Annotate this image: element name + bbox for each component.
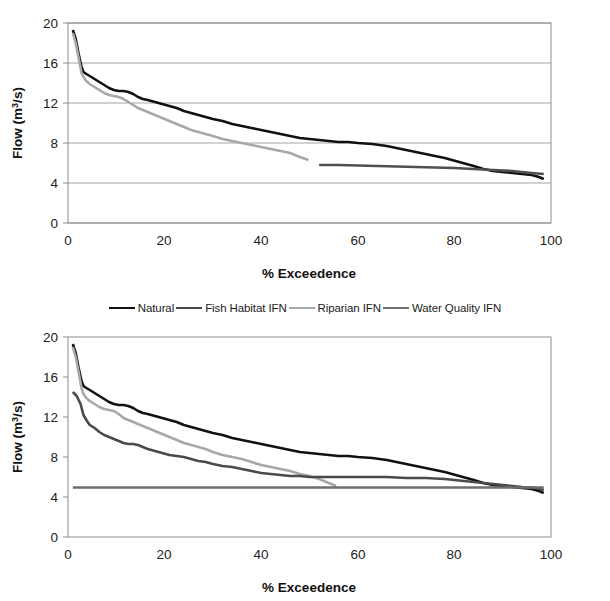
series-line-natural [73, 30, 544, 179]
y-tick-label: 12 [43, 96, 58, 111]
chart-top-y-tickmarks [63, 23, 68, 223]
y-tick-label: 20 [43, 330, 58, 345]
x-tick-label: 100 [540, 233, 563, 248]
x-tick-label: 0 [64, 233, 72, 248]
chart-top-plot-frame [68, 23, 551, 223]
x-tick-label: 0 [64, 547, 72, 562]
y-tick-label: 12 [43, 410, 58, 425]
legend-entry[interactable]: Water Quality IFN [382, 302, 502, 314]
x-tick-label: 40 [253, 233, 268, 248]
chart-top-gridlines [68, 23, 551, 223]
chart-legend: NaturalFish Habitat IFNRiparian IFNWater… [0, 296, 610, 320]
svg-text:Flow (m3/s): Flow (m3/s) [10, 87, 25, 159]
y-tick-label: 16 [43, 370, 58, 385]
chart-bottom-y-axis-title: Flow (m3/s) [10, 401, 25, 473]
chart-bottom-panel: 20 16 12 8 4 0 0 20 40 60 80 100 Flow (m… [0, 325, 610, 601]
x-tick-label: 20 [156, 233, 171, 248]
y-tick-label: 8 [50, 450, 58, 465]
legend-label: Natural [138, 302, 174, 314]
y-tick-label: 0 [50, 530, 58, 545]
legend-label: Riparian IFN [318, 302, 381, 314]
chart-top-svg: 20 16 12 8 4 0 0 20 40 60 80 100 Flow (m… [0, 0, 610, 292]
x-tick-label: 60 [350, 233, 365, 248]
chart-top-series-group [73, 30, 544, 179]
y-tick-label: 4 [50, 176, 58, 191]
chart-bottom-y-tickmarks [63, 337, 68, 537]
legend-line-swatch [289, 307, 315, 309]
chart-top-y-axis-title: Flow (m3/s) [10, 87, 25, 159]
legend-label: Fish Habitat IFN [205, 302, 286, 314]
legend-entry[interactable]: Natural [108, 302, 175, 314]
chart-top-x-axis-title: % Exceedence [262, 266, 356, 281]
legend-entry[interactable]: Riparian IFN [288, 302, 382, 314]
y-tick-label: 4 [50, 490, 58, 505]
chart-bottom-series-group [73, 344, 544, 493]
series-line-riparian-ifn [73, 33, 309, 160]
legend-line-swatch [383, 307, 409, 309]
legend-line-swatch [176, 307, 202, 309]
chart-top-panel: 20 16 12 8 4 0 0 20 40 60 80 100 Flow (m… [0, 0, 610, 292]
x-tick-label: 80 [446, 547, 461, 562]
chart-top-y-ticklabels: 20 16 12 8 4 0 [43, 16, 59, 231]
svg-text:Flow (m3/s): Flow (m3/s) [10, 401, 25, 473]
chart-bottom-x-axis-title: % Exceedence [262, 580, 356, 595]
x-tick-label: 100 [540, 547, 563, 562]
figure-root: 20 16 12 8 4 0 0 20 40 60 80 100 Flow (m… [0, 0, 610, 601]
x-tick-label: 20 [156, 547, 171, 562]
chart-bottom-y-ticklabels: 20 16 12 8 4 0 [43, 330, 59, 545]
series-line-riparian-ifn [73, 347, 336, 486]
x-tick-label: 40 [253, 547, 268, 562]
y-tick-label: 20 [43, 16, 58, 31]
y-tick-label: 16 [43, 56, 58, 71]
y-tick-label: 8 [50, 136, 58, 151]
y-tick-label: 0 [50, 216, 58, 231]
x-tick-label: 80 [446, 233, 461, 248]
x-tick-label: 60 [350, 547, 365, 562]
series-line-natural [73, 344, 544, 493]
legend-entry[interactable]: Fish Habitat IFN [175, 302, 287, 314]
legend-label: Water Quality IFN [412, 302, 501, 314]
chart-bottom-svg: 20 16 12 8 4 0 0 20 40 60 80 100 Flow (m… [0, 325, 610, 601]
chart-bottom-x-ticklabels: 0 20 40 60 80 100 [64, 547, 562, 562]
chart-top-x-ticklabels: 0 20 40 60 80 100 [64, 233, 562, 248]
chart-bottom-plot-frame [68, 337, 551, 537]
legend-line-swatch [109, 307, 135, 309]
